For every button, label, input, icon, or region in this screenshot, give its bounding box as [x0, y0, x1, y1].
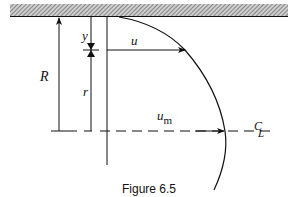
centerline: um C L [100, 108, 270, 139]
u-m-label: um [157, 108, 173, 126]
y-r-dimension: y r [80, 17, 99, 131]
pipe-wall [10, 4, 288, 17]
r-label: r [83, 84, 89, 99]
y-label: y [80, 28, 88, 43]
velocity-profile-diagram: R y r u um C L Figure 6.5 [0, 0, 288, 197]
y-arrowhead [87, 43, 95, 50]
centerline-symbol: C L [254, 119, 264, 139]
figure-caption: Figure 6.5 [122, 182, 176, 196]
centerline-symbol-L: L [257, 127, 264, 139]
u-label: u [131, 33, 138, 48]
wall-hatching [10, 4, 288, 16]
radius-R-dimension: R [39, 18, 77, 131]
velocity-u: u [107, 33, 185, 50]
R-label: R [39, 69, 49, 84]
r-arrowhead [87, 50, 95, 57]
